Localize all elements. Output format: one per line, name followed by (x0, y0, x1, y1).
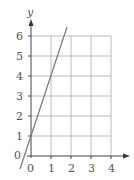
x-tick-2: 2 (68, 162, 75, 175)
x-tick-0: 0 (27, 162, 34, 175)
y-tick-2: 2 (16, 110, 23, 123)
series-line (20, 27, 67, 169)
tick-marks (28, 36, 111, 159)
y-tick-1: 1 (16, 130, 23, 143)
x-tick-4: 4 (108, 162, 115, 175)
y-tick-0: 0 (14, 149, 21, 162)
x-axis-arrow-icon (123, 154, 130, 159)
y-tick-5: 5 (16, 50, 23, 63)
y-tick-4: 4 (16, 70, 23, 83)
y-tick-3: 3 (16, 90, 23, 103)
y-axis-arrow-icon (29, 19, 34, 26)
y-axis-label: y (26, 6, 34, 19)
grid (31, 36, 111, 156)
y-tick-6: 6 (16, 30, 23, 43)
axes (27, 24, 125, 158)
x-tick-1: 1 (48, 162, 55, 175)
x-tick-3: 3 (88, 162, 95, 175)
chart: 6 5 4 3 2 1 0 0 1 2 3 4 y (0, 0, 134, 180)
